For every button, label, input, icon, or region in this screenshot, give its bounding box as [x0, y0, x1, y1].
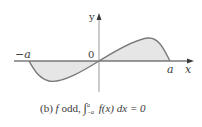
integral-lower-limit: −a: [87, 109, 94, 116]
x-axis-label: x: [185, 63, 192, 76]
origin-label: 0: [88, 49, 94, 60]
caption-part: (b): [40, 102, 53, 114]
caption-odd: odd,: [61, 102, 80, 114]
y-axis-label: y: [88, 11, 95, 22]
integral-upper-limit: a: [87, 102, 94, 109]
figure-caption: (b) f odd, ∫ a −a f(x) dx = 0: [40, 100, 170, 122]
neg-a-label: −a: [15, 48, 31, 61]
caption-integrand: f(x) dx = 0: [99, 102, 146, 114]
odd-function-figure: y x 0 −a a (b) f odd, ∫ a −a f(x) dx = 0: [0, 0, 202, 127]
pos-a-label: a: [167, 63, 174, 76]
shaded-area-negative: [29, 61, 99, 81]
y-axis-arrow-icon: [97, 13, 102, 20]
caption-f: f: [56, 102, 59, 114]
